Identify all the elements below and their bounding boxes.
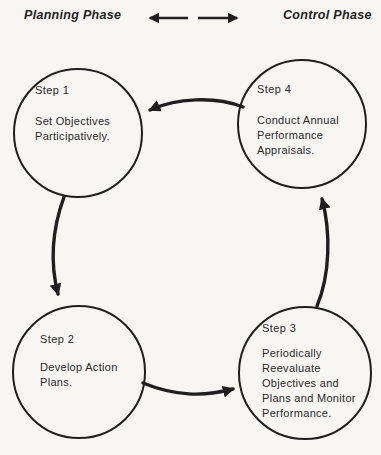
step-2-node: Step 2 Develop Action Plans. xyxy=(40,332,135,390)
step-3-node: Step 3 Periodically Reevaluate Objective… xyxy=(262,321,359,421)
diagram-page: Planning Phase Control Phase Step 1 Set … xyxy=(0,0,381,455)
step-1-node: Step 1 Set Objectives Participatively. xyxy=(35,83,127,144)
arrow-step3-to-step4 xyxy=(317,199,328,306)
arrow-step4-to-step1 xyxy=(150,100,243,110)
step-4-node: Step 4 Conduct Annual Performance Apprai… xyxy=(257,82,347,158)
step-4-description: Conduct Annual Performance Appraisals. xyxy=(257,113,347,158)
step-4-title: Step 4 xyxy=(257,82,347,97)
arrow-step1-to-step2 xyxy=(53,197,64,294)
step-3-title: Step 3 xyxy=(262,321,359,336)
arrow-step2-to-step3 xyxy=(143,383,233,394)
step-1-title: Step 1 xyxy=(35,83,127,98)
step-2-title: Step 2 xyxy=(40,332,135,347)
step-2-description: Develop Action Plans. xyxy=(40,360,135,390)
step-1-description: Set Objectives Participatively. xyxy=(35,114,127,144)
step-3-description: Periodically Reevaluate Objectives and P… xyxy=(262,346,359,421)
